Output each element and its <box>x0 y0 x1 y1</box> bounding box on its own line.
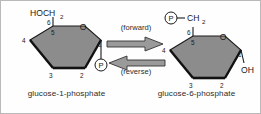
hoch2-label: HOCH <box>30 8 55 18</box>
ch2-label: CH <box>187 13 199 23</box>
ring-number-5: 5 <box>191 39 195 46</box>
ring-number-2: 2 <box>80 72 84 79</box>
ring-number-3: 3 <box>189 82 193 89</box>
ring-number-1: 1 <box>238 51 242 58</box>
hoch2-subscript: 2 <box>60 13 64 20</box>
glucose-1-phosphate-caption: glucose-1-phosphate <box>1 89 132 98</box>
glucose-6-phosphate-caption: glucose-6-phosphate <box>131 89 261 98</box>
ring-number-4: 4 <box>22 37 26 44</box>
ring-number-1: 1 <box>98 41 102 48</box>
glucose-6-phosphate-structure: O P CH 2 6 5 4 3 2 1 OH glucose-6-phosph… <box>131 1 261 114</box>
ring-number-6: 6 <box>47 19 51 26</box>
ring-number-6: 6 <box>187 29 191 36</box>
ring-number-5: 5 <box>51 29 55 36</box>
ring-number-2: 2 <box>220 82 224 89</box>
phosphate-label: P <box>168 14 173 23</box>
pyranose-ring <box>170 36 241 78</box>
hydroxyl-label: OH <box>241 65 254 75</box>
ring-oxygen-label: O <box>80 22 87 32</box>
ch2-subscript: 2 <box>202 18 206 25</box>
ring-number-3: 3 <box>49 72 53 79</box>
pyranose-ring <box>30 26 101 68</box>
ring-oxygen-label: O <box>220 32 227 42</box>
ring-number-4: 4 <box>162 47 166 54</box>
phosphate-label: P <box>98 61 103 70</box>
diagram-frame: O HOCH 2 6 5 4 3 2 1 P glucose-1-phospha… <box>0 0 261 114</box>
